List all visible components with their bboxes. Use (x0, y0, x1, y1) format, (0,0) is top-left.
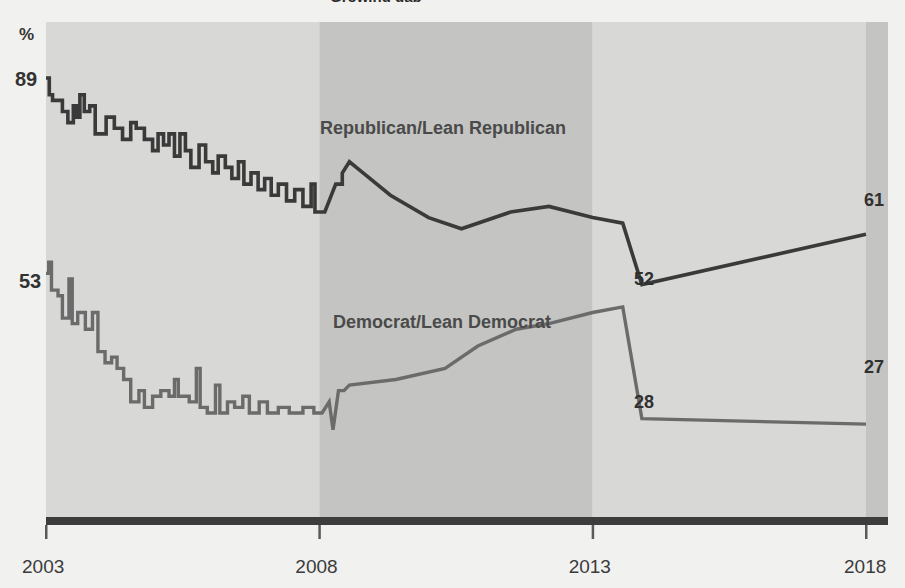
y-tick-label-53: 53 (19, 270, 41, 292)
chart-figure: Growing gap 2003200820132018 % 89 53 Rep… (0, 0, 905, 588)
x-tick-mark-2013 (592, 525, 595, 539)
annotation-republican-61: 61 (864, 190, 884, 210)
series-label-republican: Republican/Lean Republican (320, 118, 566, 138)
annotation-democrat-28: 28 (634, 392, 654, 412)
y-axis-unit-label: % (19, 25, 34, 44)
line-chart: 2003200820132018 % 89 53 Republican/Lean… (0, 0, 905, 588)
x-tick-group: 2003200820132018 (22, 525, 886, 577)
x-tick-mark-2003 (45, 525, 48, 539)
background-bands (46, 22, 888, 520)
x-tick-mark-2008 (318, 525, 321, 539)
x-axis-line (46, 517, 888, 525)
background-band-dark-3 (866, 22, 888, 520)
background-band-dark-1 (319, 22, 592, 520)
y-tick-label-89: 89 (15, 68, 37, 90)
x-axis (46, 517, 888, 525)
x-tick-label-2003: 2003 (22, 556, 64, 577)
x-tick-label-2008: 2008 (295, 556, 337, 577)
annotation-republican-52: 52 (634, 269, 654, 289)
series-label-democrat: Democrat/Lean Democrat (333, 312, 551, 332)
background-band-light-0 (46, 22, 319, 520)
x-tick-label-2018: 2018 (844, 556, 886, 577)
annotation-democrat-27: 27 (864, 357, 884, 377)
x-tick-mark-2018 (865, 525, 868, 539)
x-tick-label-2013: 2013 (569, 556, 611, 577)
